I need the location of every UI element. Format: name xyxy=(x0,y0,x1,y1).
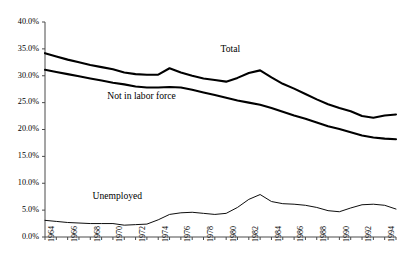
y-axis xyxy=(42,22,45,237)
x-axis-tick-label: 1980 xyxy=(230,226,238,242)
x-axis-tick-label: 1990 xyxy=(343,226,351,242)
y-axis-tick-label: 30.0% xyxy=(0,72,39,80)
x-axis-tick-label: 1982 xyxy=(252,226,260,242)
x-axis-tick-label: 1964 xyxy=(48,226,56,242)
chart-figure: 40.0%35.0%30.0%25.0%20.0%15.0%10.0%5.0%0… xyxy=(0,0,412,278)
x-axis-tick-label: 1972 xyxy=(139,226,147,242)
y-axis-tick-label: 5.0% xyxy=(0,206,39,214)
x-axis-tick-label: 1970 xyxy=(116,226,124,242)
x-axis-tick-label: 1994 xyxy=(388,226,396,242)
series-label-unemployed: Unemployed xyxy=(93,191,143,201)
x-axis-tick-label: 1984 xyxy=(275,226,283,242)
x-axis-tick-label: 1974 xyxy=(162,226,170,242)
x-axis-tick-label: 1992 xyxy=(365,226,373,242)
x-axis-tick-label: 1976 xyxy=(184,226,192,242)
y-axis-tick-label: 25.0% xyxy=(0,98,39,106)
y-axis-tick-label: 10.0% xyxy=(0,179,39,187)
y-axis-tick-label: 20.0% xyxy=(0,125,39,133)
series-line-total xyxy=(45,53,396,118)
y-axis-tick-label: 35.0% xyxy=(0,45,39,53)
x-axis-tick-label: 1968 xyxy=(94,226,102,242)
x-axis-tick-label: 1988 xyxy=(320,226,328,242)
y-axis-tick-label: 0.0% xyxy=(0,233,39,241)
series-label-not-in-labor-force: Not in labor force xyxy=(107,91,175,101)
x-axis-tick-label: 1978 xyxy=(207,226,215,242)
series-label-total: Total xyxy=(221,44,241,54)
y-axis-tick-label: 15.0% xyxy=(0,152,39,160)
x-axis-tick-label: 1966 xyxy=(71,226,79,242)
x-axis-tick-label: 1986 xyxy=(297,226,305,242)
y-axis-tick-label: 40.0% xyxy=(0,18,39,26)
